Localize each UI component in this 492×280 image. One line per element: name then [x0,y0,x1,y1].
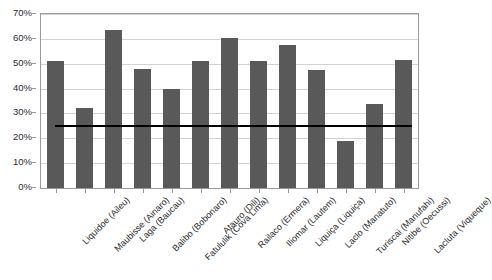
x-tick-mark [114,189,115,193]
bar [221,38,238,188]
x-tick-mark [404,189,405,193]
y-tick-mark [32,187,36,188]
x-axis: Liquidoe (Aileu)Maubisse (Ainaro)Laga (B… [0,189,430,280]
bar [76,108,93,188]
reference-line [55,125,412,127]
y-axis: 0%10%20%30%40%50%60%70% [0,13,36,189]
y-tick-mark [32,13,36,14]
bar [163,89,180,188]
x-tick-mark [230,189,231,193]
y-tick-label: 30% [13,107,32,117]
y-tick-label: 60% [13,33,32,43]
bar [105,30,122,188]
y-tick-label: 40% [13,83,32,93]
bars-layer [41,14,418,188]
bar-slot [250,14,267,188]
bar [366,104,383,189]
x-tick-mark [85,189,86,193]
x-tick-mark [56,189,57,193]
x-tick-mark [288,189,289,193]
y-tick-label: 20% [13,132,32,142]
bar-slot [47,14,64,188]
bar [279,45,296,188]
bar-slot [76,14,93,188]
x-tick-mark [375,189,376,193]
x-tick-label: Iliomar (Lautem) [284,195,337,248]
bar [134,69,151,188]
bar [337,141,354,188]
x-tick-mark [201,189,202,193]
x-tick-mark [317,189,318,193]
bar-slot [105,14,122,188]
y-tick-mark [32,88,36,89]
bar-slot [221,14,238,188]
x-tick-mark [143,189,144,193]
bar-slot [192,14,209,188]
bar-slot [337,14,354,188]
y-tick-mark [32,137,36,138]
y-tick-label: 50% [13,58,32,68]
y-tick-mark [32,63,36,64]
x-tick-mark [172,189,173,193]
y-tick-mark [32,112,36,113]
y-tick-label: 70% [13,8,32,18]
bar [308,70,325,188]
bar-slot [163,14,180,188]
bar-slot [366,14,383,188]
bar-slot [279,14,296,188]
x-tick-mark [346,189,347,193]
y-tick-mark [32,38,36,39]
y-tick-label: 10% [13,157,32,167]
bar-slot [134,14,151,188]
bar-slot [308,14,325,188]
y-tick-mark [32,162,36,163]
x-tick-mark [259,189,260,193]
bar-slot [395,14,412,188]
